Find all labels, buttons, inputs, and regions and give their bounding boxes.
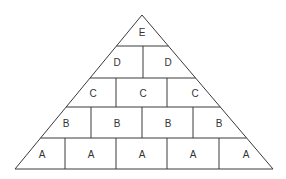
block-label-b: B	[114, 118, 121, 129]
block-label-b: B	[63, 118, 70, 129]
block-label-c: C	[191, 88, 198, 99]
block-label-b: B	[216, 118, 223, 129]
block-label-a: A	[39, 149, 46, 160]
pyramid-diagram: E D D C C C B B B B A A A A A	[0, 0, 286, 179]
block-label-e: E	[139, 27, 146, 38]
block-label-a: A	[243, 149, 250, 160]
block-label-a: A	[190, 149, 197, 160]
block-label-a: A	[139, 149, 146, 160]
block-label-c: C	[139, 88, 146, 99]
block-label-b: B	[165, 118, 172, 129]
block-label-a: A	[88, 149, 95, 160]
block-label-d: D	[113, 57, 120, 68]
block-label-c: C	[89, 88, 96, 99]
block-label-d: D	[164, 57, 171, 68]
